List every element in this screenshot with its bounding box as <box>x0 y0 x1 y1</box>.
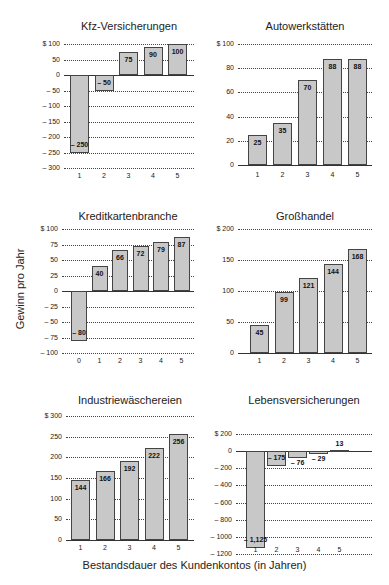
gridline <box>62 229 194 230</box>
bar <box>120 461 139 540</box>
gridline <box>236 554 372 555</box>
bar-value-label: 121 <box>293 282 324 289</box>
bar <box>348 59 367 165</box>
gridline <box>62 353 194 354</box>
x-tick-label: 4 <box>326 171 340 178</box>
x-tick-label: 3 <box>134 357 148 364</box>
bar <box>145 448 164 540</box>
y-tick-label: 0 <box>24 287 58 294</box>
x-tick-label: 3 <box>123 544 137 551</box>
y-tick-label: 0 <box>200 349 234 356</box>
zero-line <box>238 353 372 354</box>
x-tick-label: 1 <box>251 171 265 178</box>
bar-value-label: 13 <box>324 440 355 447</box>
panel-title: Industriewäschereien <box>56 394 204 406</box>
x-tick-label: 2 <box>98 544 112 551</box>
x-tick-label: 5 <box>351 357 365 364</box>
y-tick-label: – 75 <box>24 334 58 341</box>
x-tick-label: 5 <box>172 544 186 551</box>
x-tick-label: 1 <box>253 357 267 364</box>
bar-value-label: 144 <box>318 268 349 275</box>
y-tick-label: $ 200 <box>198 430 232 437</box>
gridline <box>238 44 372 45</box>
bar <box>246 451 265 547</box>
bar-value-label: – 50 <box>89 79 120 86</box>
x-tick-label: 5 <box>175 357 189 364</box>
panel-title: Kreditkartenbranche <box>52 210 204 222</box>
bar-value-label: 192 <box>114 465 145 472</box>
bar-value-label: 25 <box>242 139 273 146</box>
bar <box>348 249 367 353</box>
bar <box>324 264 343 353</box>
y-tick-label: 40 <box>200 113 234 120</box>
bar-value-label: 87 <box>168 241 196 248</box>
bar-value-label: 35 <box>267 127 298 134</box>
y-tick-label: – 100 <box>24 349 58 356</box>
x-tick-label: 1 <box>249 546 263 553</box>
x-tick-label: 4 <box>147 544 161 551</box>
y-tick-label: 20 <box>200 137 234 144</box>
panel-title: Autowerkstätten <box>228 20 382 32</box>
bar <box>169 434 188 540</box>
bar-value-label: 45 <box>244 329 275 336</box>
bar-value-label: 168 <box>342 253 373 260</box>
bar-value-label: 40 <box>86 270 114 277</box>
bar-value-label: 256 <box>163 438 194 445</box>
y-tick-label: 60 <box>200 88 234 95</box>
y-tick-label: 50 <box>28 515 62 522</box>
x-tick-label: 5 <box>171 172 185 179</box>
bar-value-label: – 1,125 <box>240 536 271 543</box>
bar-value-label: 100 <box>162 48 193 55</box>
y-tick-label: 0 <box>28 536 62 543</box>
y-tick-label: – 100 <box>26 102 60 109</box>
y-tick-label: 50 <box>26 56 60 63</box>
y-tick-label: 50 <box>24 256 58 263</box>
x-tick-label: 3 <box>122 172 136 179</box>
y-tick-label: 0 <box>26 71 60 78</box>
y-tick-label: – 800 <box>198 516 232 523</box>
x-tick-label: 5 <box>333 546 347 553</box>
gridline <box>64 153 194 154</box>
gridline <box>64 168 194 169</box>
bar-value-label: 88 <box>342 63 373 70</box>
gridline <box>238 229 372 230</box>
y-tick-label: – 200 <box>198 464 232 471</box>
y-tick-label: 200 <box>28 453 62 460</box>
bar <box>299 278 318 353</box>
y-tick-label: 25 <box>24 272 58 279</box>
y-tick-label: 150 <box>200 256 234 263</box>
y-tick-label: – 1000 <box>198 533 232 540</box>
y-tick-label: 75 <box>24 241 58 248</box>
x-tick-label: 4 <box>154 357 168 364</box>
bar-value-label: – 80 <box>65 329 93 336</box>
panel-title: Großhandel <box>228 210 382 222</box>
y-tick-label: 250 <box>28 433 62 440</box>
y-tick-label: – 150 <box>26 118 60 125</box>
panel-title: Lebensversicherungen <box>226 394 382 406</box>
x-tick-label: 1 <box>93 357 107 364</box>
x-tick-label: 1 <box>74 544 88 551</box>
bar-value-label: 99 <box>269 296 300 303</box>
y-tick-label: $ 100 <box>200 40 234 47</box>
x-tick-label: 4 <box>146 172 160 179</box>
x-tick-label: 0 <box>72 357 86 364</box>
zero-line <box>238 165 372 166</box>
y-tick-label: 80 <box>200 64 234 71</box>
x-axis-label: Bestandsdauer des Kundenkontos (in Jahre… <box>0 559 389 571</box>
y-tick-label: – 300 <box>26 164 60 171</box>
zero-line <box>66 540 194 541</box>
x-tick-label: 3 <box>301 171 315 178</box>
y-tick-label: $ 100 <box>26 40 60 47</box>
y-tick-label: $ 100 <box>24 225 58 232</box>
bar <box>309 451 328 453</box>
x-tick-label: 2 <box>277 357 291 364</box>
y-tick-label: – 600 <box>198 499 232 506</box>
y-tick-label: 150 <box>28 474 62 481</box>
x-tick-label: 2 <box>270 546 284 553</box>
bar-value-label: 144 <box>65 484 96 491</box>
y-tick-label: – 200 <box>26 133 60 140</box>
y-tick-label: $ 300 <box>28 412 62 419</box>
bar <box>323 59 342 165</box>
y-tick-label: 100 <box>28 495 62 502</box>
y-tick-label: – 50 <box>24 318 58 325</box>
